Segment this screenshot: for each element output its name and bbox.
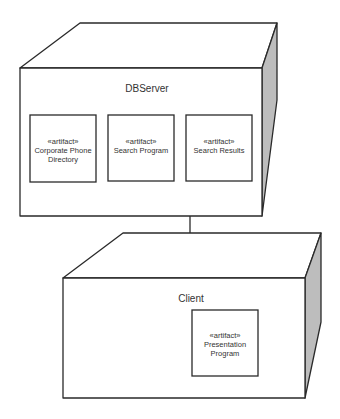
artifact-name-line-1: Search Program bbox=[114, 146, 169, 155]
artifact-presentation-program[interactable]: «artifact» Presentation Program bbox=[192, 310, 258, 376]
artifact-name-line-1: Search Results bbox=[194, 146, 245, 155]
artifact-name-line-2: Directory bbox=[48, 155, 78, 164]
artifact-search-results[interactable]: «artifact» Search Results bbox=[186, 115, 252, 181]
artifact-name-line-2: Program bbox=[211, 349, 240, 358]
artifact-stereotype: «artifact» bbox=[204, 137, 235, 146]
node-label-dbserver: DBServer bbox=[125, 83, 169, 94]
artifact-stereotype: «artifact» bbox=[210, 331, 241, 340]
artifact-name-line-1: Presentation bbox=[204, 340, 246, 349]
artifact-name-line-1: Corporate Phone bbox=[34, 146, 91, 155]
node-label-client: Client bbox=[178, 293, 204, 304]
artifact-corporate-phone-directory[interactable]: «artifact» Corporate Phone Directory bbox=[30, 115, 96, 182]
artifact-stereotype: «artifact» bbox=[48, 137, 79, 146]
artifact-stereotype: «artifact» bbox=[126, 137, 157, 146]
client-top-face bbox=[63, 233, 321, 278]
node-client[interactable]: Client «artifact» Presentation Program bbox=[63, 233, 321, 398]
node-dbserver[interactable]: DBServer «artifact» Corporate Phone Dire… bbox=[20, 23, 277, 216]
dbserver-top-face bbox=[20, 23, 277, 68]
deployment-diagram: DBServer «artifact» Corporate Phone Dire… bbox=[0, 0, 340, 419]
artifact-search-program[interactable]: «artifact» Search Program bbox=[108, 115, 174, 181]
